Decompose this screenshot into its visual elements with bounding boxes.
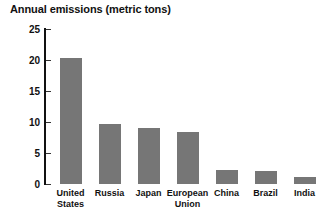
bar bbox=[138, 128, 160, 184]
bar bbox=[60, 58, 82, 184]
bar bbox=[177, 132, 199, 184]
y-axis-tick-label: 10 bbox=[4, 117, 40, 128]
bar-chart: Annual emissions (metric tons) 051015202… bbox=[0, 0, 324, 223]
x-axis-category-label: India bbox=[294, 188, 315, 199]
y-axis-tick bbox=[46, 184, 51, 185]
y-axis-tick-label: 5 bbox=[4, 148, 40, 159]
bar bbox=[294, 177, 316, 184]
y-axis-tick-labels: 0510152025 bbox=[0, 0, 40, 223]
y-axis-tick-label: 0 bbox=[4, 179, 40, 190]
x-axis-category-label: Japan bbox=[135, 188, 161, 199]
y-axis-tick-label: 25 bbox=[4, 24, 40, 35]
x-axis-category-label: United States bbox=[57, 188, 85, 209]
x-axis-category-label: Brazil bbox=[253, 188, 278, 199]
x-axis-category-label: China bbox=[214, 188, 239, 199]
bar bbox=[99, 124, 121, 184]
bar bbox=[216, 170, 238, 184]
y-axis-tick-label: 15 bbox=[4, 86, 40, 97]
bars-layer bbox=[44, 29, 322, 184]
x-axis-category-label: European Union bbox=[167, 188, 209, 209]
bar bbox=[255, 171, 277, 184]
x-axis-category-label: Russia bbox=[95, 188, 125, 199]
y-axis-tick-label: 20 bbox=[4, 55, 40, 66]
